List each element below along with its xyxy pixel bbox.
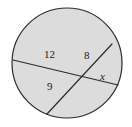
geometry-figure: 12 8 9 x bbox=[0, 0, 132, 127]
circle-diagram-svg bbox=[0, 0, 132, 127]
segment-label-9: 9 bbox=[47, 81, 53, 92]
segment-label-12: 12 bbox=[44, 49, 55, 60]
segment-label-x: x bbox=[100, 71, 105, 82]
segment-label-8: 8 bbox=[84, 50, 90, 61]
circle-shape bbox=[12, 8, 122, 118]
